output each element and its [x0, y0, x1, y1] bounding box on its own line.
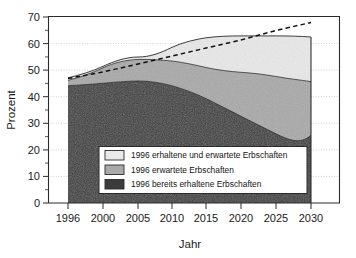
area-chart-svg: 0 10 20 30 40 50 60 70 1996 2000 2005 20…: [0, 0, 356, 258]
legend-swatch-dark: [105, 180, 124, 190]
chart-figure: 0 10 20 30 40 50 60 70 1996 2000 2005 20…: [0, 0, 356, 258]
x-tick-label: 2010: [160, 212, 184, 224]
legend-swatch-light: [105, 151, 124, 161]
x-tick-label: 2025: [264, 212, 288, 224]
y-tick-label: 0: [34, 197, 40, 209]
x-axis-title: Jahr: [179, 238, 202, 250]
legend-swatch-mid: [105, 165, 124, 175]
legend-label-mid: 1996 erwartete Erbschaften: [131, 165, 234, 175]
y-tick-label: 10: [28, 170, 40, 182]
legend-label-dark: 1996 bereits erhaltene Erbschaften: [131, 179, 262, 189]
x-tick-label: 2030: [299, 212, 323, 224]
y-tick-label: 50: [28, 64, 40, 76]
legend-label-light: 1996 erhaltene und erwartete Erbschaften: [131, 150, 288, 160]
x-tick-label: 2005: [126, 212, 150, 224]
y-tick-label: 30: [28, 117, 40, 129]
y-tick-label: 40: [28, 91, 40, 103]
x-tick-label: 2000: [91, 212, 115, 224]
x-tick-label: 1996: [56, 212, 80, 224]
x-tick-label: 2015: [194, 212, 218, 224]
x-tick-label: 2020: [229, 212, 253, 224]
y-axis-title: Prozent: [5, 89, 17, 129]
chart-legend: 1996 erhaltene und erwartete Erbschaften…: [99, 147, 307, 194]
y-tick-label: 20: [28, 144, 40, 156]
y-tick-label: 70: [28, 11, 40, 23]
y-tick-label: 60: [28, 38, 40, 50]
